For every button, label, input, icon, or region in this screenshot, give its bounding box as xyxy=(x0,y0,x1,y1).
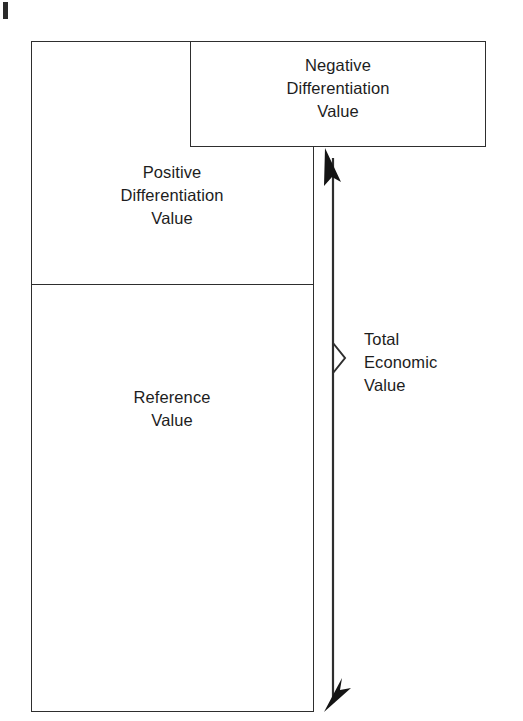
negative-differentiation-label: Negative Differentiation Value xyxy=(196,54,480,123)
chevron-right-icon xyxy=(333,343,345,373)
figure-canvas: Negative Differentiation Value Positive … xyxy=(0,0,523,721)
value-stack-divider xyxy=(31,284,314,285)
page-margin-tick xyxy=(3,2,8,19)
total-economic-value-label: Total Economic Value xyxy=(364,328,504,397)
reference-value-label: Reference Value xyxy=(36,386,308,432)
arrow-head-down-icon xyxy=(324,678,351,712)
positive-differentiation-label: Positive Differentiation Value xyxy=(36,161,308,230)
arrow-head-up-icon xyxy=(324,148,341,186)
